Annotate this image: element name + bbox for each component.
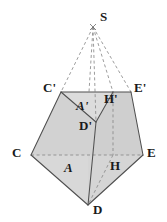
vertex-label-H-prime: H' xyxy=(104,92,118,105)
vertex-label-C-prime: C' xyxy=(43,81,56,94)
vertex-label-D-prime: D' xyxy=(79,119,92,132)
edge-S-Hp xyxy=(93,27,113,92)
vertex-label-E: E xyxy=(147,146,156,159)
edge-S-mid xyxy=(89,27,93,92)
geometry-figure: S C' E' H' A' D' C E H A D xyxy=(0,0,167,222)
vertex-label-A-prime: A' xyxy=(76,99,88,112)
vertex-label-S: S xyxy=(100,10,107,23)
edge-S-Ep xyxy=(93,27,131,92)
vertex-label-C: C xyxy=(12,146,21,159)
vertex-label-A: A xyxy=(64,161,73,174)
vertex-label-D: D xyxy=(93,203,102,216)
vertex-label-E-prime: E' xyxy=(134,81,146,94)
edge-S-Cp xyxy=(61,27,93,92)
vertex-label-H: H xyxy=(110,159,120,172)
